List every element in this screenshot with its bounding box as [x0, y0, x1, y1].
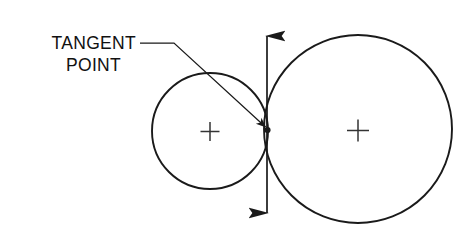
tangent-circles-diagram: TANGENT POINT: [0, 0, 473, 233]
diagram-canvas: TANGENT POINT: [0, 0, 473, 233]
callout-label-line2: POINT: [66, 55, 121, 75]
left-circle-center-cross-icon: [201, 122, 220, 141]
tangent-point-marker: [264, 127, 270, 133]
right-circle-center-cross-icon: [347, 120, 369, 142]
callout-label-line1: TANGENT: [52, 33, 136, 53]
